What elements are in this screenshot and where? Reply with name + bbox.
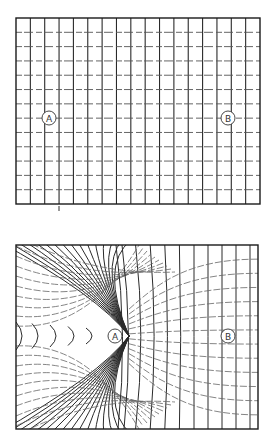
grid-line [50,325,56,347]
bottom-label-b: B [221,329,235,343]
top-grid-horizontal-lines [16,32,260,189]
grid-line [5,336,129,434]
bottom-grid-lines [0,236,258,436]
grid-line [179,245,180,429]
grid-line [68,327,74,346]
figure-canvas: A B A B [0,0,270,441]
top-grid-vertical-lines [30,18,245,204]
label-a-text: A [46,114,53,124]
bottom-distorted-grid-panel: A B [0,236,258,436]
top-panel-frame [16,18,260,204]
grid-line [32,324,38,349]
grid-line [16,263,163,279]
grid-line [86,328,92,344]
label-b-text: B [225,114,231,124]
top-label-b: B [221,111,235,125]
bottom-label-a: A [108,329,122,343]
top-label-a: A [42,111,56,125]
top-grid-panel: A B [16,18,260,211]
label-a-text: A [112,332,119,342]
label-b-text: B [225,332,231,342]
